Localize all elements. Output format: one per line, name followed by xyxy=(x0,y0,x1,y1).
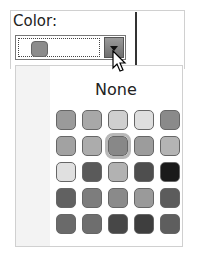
color-swatch[interactable] xyxy=(82,162,102,182)
color-swatch[interactable] xyxy=(56,110,76,130)
color-swatch[interactable] xyxy=(160,214,180,234)
color-label: Color: xyxy=(13,12,57,30)
color-swatch[interactable] xyxy=(160,136,180,156)
color-swatch[interactable] xyxy=(160,162,180,182)
color-swatch[interactable] xyxy=(82,110,102,130)
combo-field[interactable] xyxy=(18,38,100,57)
color-swatch[interactable] xyxy=(82,188,102,208)
color-swatch[interactable] xyxy=(134,162,154,182)
mouse-cursor-icon xyxy=(112,50,128,74)
color-swatch[interactable] xyxy=(56,136,76,156)
color-swatch[interactable] xyxy=(82,136,102,156)
color-combobox[interactable] xyxy=(15,35,126,60)
color-swatch[interactable] xyxy=(56,188,76,208)
divider xyxy=(135,12,137,66)
color-swatch[interactable] xyxy=(108,162,128,182)
dropdown-gutter xyxy=(16,66,50,246)
color-swatch[interactable] xyxy=(108,188,128,208)
color-swatch[interactable] xyxy=(134,110,154,130)
color-swatch[interactable] xyxy=(160,188,180,208)
selected-color-swatch xyxy=(31,41,48,57)
color-swatch[interactable] xyxy=(160,110,180,130)
color-swatch[interactable] xyxy=(134,136,154,156)
color-swatch[interactable] xyxy=(56,162,76,182)
color-swatch[interactable] xyxy=(108,136,128,156)
color-swatch[interactable] xyxy=(56,214,76,234)
color-grid xyxy=(56,110,180,234)
color-swatch[interactable] xyxy=(108,110,128,130)
color-swatch[interactable] xyxy=(134,214,154,234)
color-swatch[interactable] xyxy=(82,214,102,234)
color-swatch[interactable] xyxy=(134,188,154,208)
color-swatch[interactable] xyxy=(108,214,128,234)
none-option[interactable]: None xyxy=(95,80,137,99)
